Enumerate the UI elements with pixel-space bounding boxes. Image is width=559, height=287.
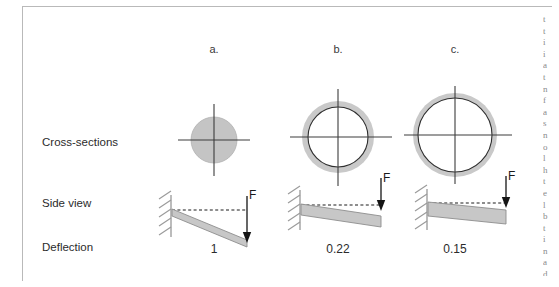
cross-section-b bbox=[290, 89, 392, 186]
side-view-a-wall-support bbox=[159, 191, 171, 237]
side-view-c-beam bbox=[428, 202, 506, 224]
row-label-side-view: Side view bbox=[42, 197, 92, 209]
row-label-deflection: Deflection bbox=[42, 241, 93, 253]
deflection-value-a: 1 bbox=[211, 242, 218, 256]
deflection-value-c: 0.15 bbox=[443, 242, 467, 256]
cross-section-a bbox=[178, 104, 250, 176]
side-view-a-beam bbox=[172, 209, 247, 247]
side-view-a-force-arrow bbox=[243, 196, 251, 243]
side-view-a-force-label: F bbox=[249, 188, 256, 202]
side-view-c-wall-support bbox=[415, 185, 427, 230]
side-view-b: F bbox=[288, 171, 390, 230]
side-view-c-force-label: F bbox=[508, 169, 515, 183]
side-view-a: F bbox=[159, 188, 256, 247]
column-label-b: b. bbox=[333, 43, 342, 55]
column-label-c: c. bbox=[451, 43, 460, 55]
row-label-cross-sections: Cross-sections bbox=[42, 136, 118, 148]
column-label-a: a. bbox=[209, 43, 218, 55]
beam-deflection-diagram: a. b. c. Cross-sections Side view Deflec… bbox=[0, 0, 559, 287]
side-view-c: F bbox=[415, 169, 515, 230]
figure-root: ttiiatnfasnolhtelbtinadsnoeflaitcboneisr… bbox=[0, 0, 559, 287]
side-view-b-wall-support bbox=[288, 186, 300, 230]
side-view-b-beam bbox=[301, 204, 381, 227]
deflection-value-b: 0.22 bbox=[326, 242, 350, 256]
side-view-b-force-label: F bbox=[383, 171, 390, 185]
cross-section-c bbox=[404, 86, 512, 184]
